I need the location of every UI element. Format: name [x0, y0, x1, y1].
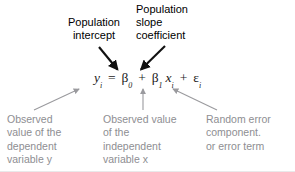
equation-term-intercept: β0: [121, 70, 132, 86]
bottom-divider: [0, 171, 295, 172]
equation-plus-sign-2: +: [177, 70, 190, 86]
arrow-slope: [141, 46, 165, 70]
arrow-observed-y: [34, 89, 79, 110]
arrow-intercept: [99, 47, 118, 70]
equation-term-error: εi: [193, 70, 201, 86]
regression-equation: yi = β0 + β1xi + εi: [0, 70, 295, 86]
annotation-random-error-component: Random error component. or error term: [206, 113, 292, 153]
equation-equals-sign: =: [105, 70, 118, 86]
annotation-population-intercept: Population intercept: [58, 16, 130, 42]
equation-term-independent-variable: xi: [166, 70, 174, 86]
equation-plus-sign-1: +: [136, 70, 149, 86]
arrow-random-error: [173, 89, 217, 110]
equation-term-dependent-variable: yi: [94, 70, 102, 86]
equation-term-slope: β1: [152, 70, 163, 86]
regression-equation-diagram: Population intercept Population slope co…: [0, 0, 295, 172]
annotation-observed-value-independent: Observed value of the independent variab…: [103, 113, 195, 167]
annotation-observed-value-dependent: Observed value of the dependent variable…: [7, 113, 91, 167]
annotation-population-slope-coefficient: Population slope coefficient: [136, 3, 210, 42]
